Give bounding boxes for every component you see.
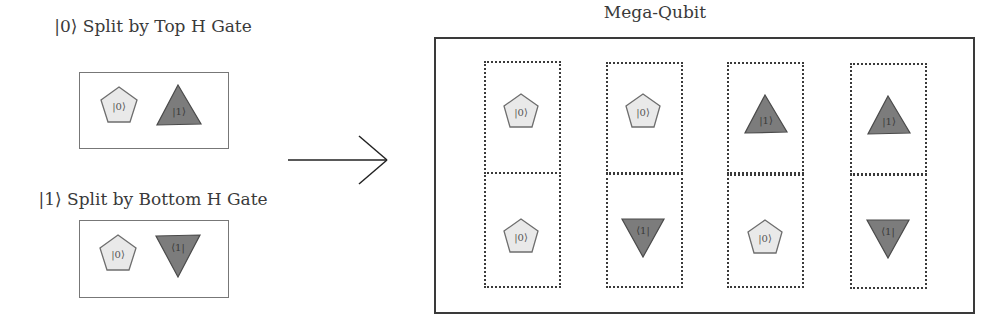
pentagon-zero-shape: |0⟩ [624,93,662,129]
mega-qubit-title: Mega-Qubit [580,2,730,22]
shape-label: |0⟩ [636,107,650,119]
triangle-up-one-shape: |1⟩ [744,94,788,134]
triangle-up-icon [157,85,201,125]
shape-label: |0⟩ [514,232,528,244]
shape-label: |1⟩ [172,106,186,118]
triangle-up-one-shape: |1⟩ [156,84,202,126]
triangle-down-one-shape: ⟨1| [866,219,910,259]
triangle-up-icon [745,95,787,133]
pentagon-zero-shape: |0⟩ [502,218,540,254]
bottom-h-gate-title: |1⟩ Split by Bottom H Gate [26,189,280,209]
shape-label: |1⟩ [759,115,773,127]
right-arrow-icon [285,134,391,190]
shape-label: |0⟩ [112,101,126,113]
shape-label: |0⟩ [514,107,528,119]
shape-label: |1⟩ [882,116,896,128]
triangle-up-one-shape: |1⟩ [867,95,911,135]
shape-label: |0⟩ [111,249,125,261]
shape-label: ⟨1| [636,225,650,237]
shape-label: |0⟩ [758,233,772,245]
shape-label: ⟨1| [881,226,895,238]
top-h-gate-title: |0⟩ Split by Top H Gate [36,16,270,36]
triangle-up-icon [868,96,910,134]
pentagon-zero-shape: |0⟩ [502,93,540,129]
pentagon-zero-shape: |0⟩ [746,219,784,255]
pentagon-zero-shape: |0⟩ [98,234,138,272]
pentagon-zero-shape: |0⟩ [99,86,139,124]
triangle-down-one-shape: ⟨1| [621,218,665,258]
shape-label: ⟨1| [171,242,185,254]
triangle-down-one-shape: ⟨1| [155,234,201,278]
